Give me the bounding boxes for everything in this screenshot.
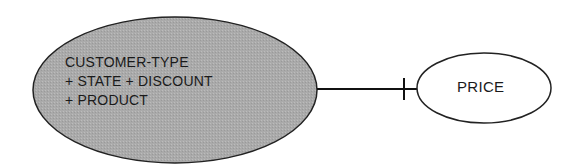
composite-key-line-3: + PRODUCT: [65, 91, 213, 110]
composite-key-line-2: + STATE + DISCOUNT: [65, 72, 213, 91]
composite-key-line-1: CUSTOMER-TYPE: [65, 53, 213, 72]
price-label: PRICE: [457, 78, 504, 95]
composite-key-label: CUSTOMER-TYPE + STATE + DISCOUNT + PRODU…: [65, 53, 213, 110]
